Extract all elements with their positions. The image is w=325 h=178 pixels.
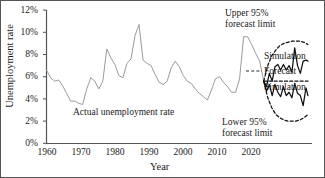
x-tick-label-1970: 1970 (64, 147, 98, 157)
y-tick-label-10: 10% (8, 27, 38, 37)
y-tick-label-6: 6% (8, 71, 38, 81)
y-tick-label-4: 4% (8, 94, 38, 104)
x-tick-label-1980: 1980 (98, 147, 132, 157)
upper-limit-annotation-line2: forecast limit (225, 19, 275, 29)
upper-limit-annotation-line1: Upper 95% (225, 8, 269, 18)
x-tick-label-2020: 2020 (234, 147, 268, 157)
x-tick-label-2000: 2000 (166, 147, 200, 157)
y-tick-label-8: 8% (8, 49, 38, 59)
axis-lines (46, 10, 312, 144)
legend-label-simulation-top: Simulation (264, 51, 306, 61)
y-tick-label-12: 12% (8, 5, 38, 15)
unemployment-forecast-chart: Unemployment rate 12% 10% 8% 6% 4% 2% 0%… (0, 0, 325, 178)
legend-label-forecast: Forecast (264, 66, 296, 76)
actual-rate-annotation: Actual unemployment rate (73, 107, 174, 117)
x-tick-label-1990: 1990 (132, 147, 166, 157)
x-axis-title: Year (150, 161, 169, 172)
x-tick-label-2010: 2010 (200, 147, 234, 157)
lower-limit-annotation-line2: forecast limit (222, 128, 272, 138)
series-actual-unemployment-rate (47, 25, 264, 105)
y-axis-title: Unemployment rate (4, 6, 15, 126)
lower-limit-annotation-line1: Lower 95% (222, 117, 267, 127)
legend-label-simulation-bottom: Simulation (264, 82, 306, 92)
x-tick-label-1960: 1960 (30, 147, 64, 157)
y-tick-label-2: 2% (8, 116, 38, 126)
